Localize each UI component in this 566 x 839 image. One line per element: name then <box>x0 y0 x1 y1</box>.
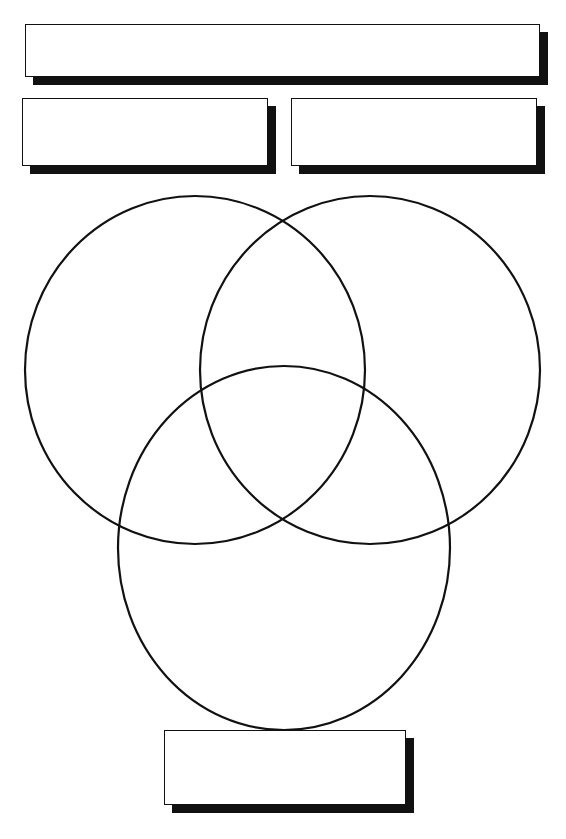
left-circle-label-box[interactable] <box>22 98 268 166</box>
worksheet-page <box>0 0 566 839</box>
title-label-box[interactable] <box>25 24 540 77</box>
right-circle-label-box[interactable] <box>291 98 537 166</box>
venn-circle-bottom[interactable] <box>118 366 450 730</box>
bottom-circle-label-box[interactable] <box>164 730 406 805</box>
venn-diagram <box>0 180 566 745</box>
venn-diagram-svg <box>0 180 566 745</box>
